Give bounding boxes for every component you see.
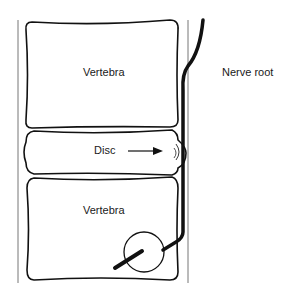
top-vertebra-label: Vertebra [83, 66, 125, 78]
arrow-head [153, 147, 163, 155]
foramen-circle [124, 232, 164, 272]
bottom-vertebra-shape [27, 177, 178, 280]
disc-label: Disc [94, 144, 115, 156]
disc-bulge-mark [176, 144, 179, 160]
nerve-root-line [163, 20, 203, 250]
spine-diagram [0, 0, 291, 294]
bottom-vertebra-label: Vertebra [83, 204, 125, 216]
disc-bulge-mark [174, 148, 176, 158]
nerve-root-label: Nerve root [222, 66, 273, 78]
